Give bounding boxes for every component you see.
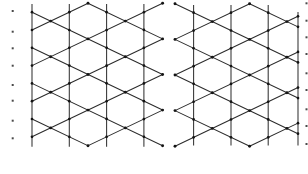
- crossing-dot: [49, 91, 52, 94]
- crossing-dot: [161, 37, 164, 40]
- node-dot: [31, 46, 34, 49]
- lattice-diagram: [0, 0, 308, 174]
- node-dot: [143, 11, 146, 14]
- node-dot: [192, 65, 195, 68]
- node-dot: [297, 122, 300, 125]
- crossing-dot: [87, 109, 90, 112]
- crossing-dot: [87, 73, 90, 76]
- node-dot: [267, 100, 270, 103]
- node-dot: [105, 118, 108, 121]
- node-dot: [267, 47, 270, 50]
- edge-dot: [12, 31, 14, 33]
- node-dot: [68, 100, 71, 103]
- crossing-dot: [161, 144, 164, 147]
- edge-dot: [12, 120, 14, 122]
- node-dot: [297, 51, 300, 54]
- lattice-canvas: [0, 0, 308, 174]
- node-dot: [297, 61, 300, 64]
- left-lattice-panel: [31, 2, 164, 147]
- node-dot: [31, 11, 34, 14]
- node-dot: [31, 135, 34, 138]
- node-dot: [143, 29, 146, 32]
- node-dot: [68, 11, 71, 14]
- descending-diagonal-line: [250, 4, 298, 27]
- crossing-dot: [49, 126, 52, 129]
- crossing-dot: [87, 2, 90, 5]
- crossing-dot: [211, 127, 214, 130]
- crossing-dot: [161, 2, 164, 5]
- crossing-dot: [285, 56, 288, 59]
- right-lattice-panel: [174, 2, 300, 147]
- edge-dot: [306, 89, 308, 91]
- node-dot: [297, 86, 300, 89]
- node-dot: [297, 26, 300, 29]
- crossing-dot: [87, 144, 90, 147]
- edge-dot: [306, 108, 308, 110]
- node-dot: [31, 82, 34, 85]
- node-dot: [105, 29, 108, 32]
- crossing-dot: [248, 74, 251, 77]
- node-dot: [31, 29, 34, 32]
- crossing-dot: [174, 2, 177, 5]
- node-dot: [192, 11, 195, 14]
- node-dot: [267, 118, 270, 121]
- node-dot: [230, 100, 233, 103]
- node-dot: [192, 47, 195, 50]
- node-dot: [31, 100, 34, 103]
- node-dot: [105, 100, 108, 103]
- crossing-dot: [49, 20, 52, 23]
- node-dot: [105, 64, 108, 67]
- node-dot: [297, 97, 300, 100]
- node-dot: [105, 82, 108, 85]
- crossing-dot: [248, 38, 251, 41]
- node-dot: [230, 65, 233, 68]
- node-dot: [143, 100, 146, 103]
- node-dot: [68, 29, 71, 32]
- node-dot: [267, 83, 270, 86]
- left-edge-dot-column: [12, 10, 14, 139]
- crossing-dot: [285, 20, 288, 23]
- crossing-dot: [211, 91, 214, 94]
- edge-dot: [306, 2, 308, 4]
- node-dot: [267, 136, 270, 139]
- crossing-dot: [285, 127, 288, 130]
- node-dot: [192, 118, 195, 121]
- crossing-dot: [248, 145, 251, 148]
- node-dot: [143, 46, 146, 49]
- edge-dot: [306, 143, 308, 145]
- crossing-dot: [211, 20, 214, 23]
- node-dot: [230, 136, 233, 139]
- node-dot: [143, 118, 146, 121]
- crossing-dot: [248, 2, 251, 5]
- edge-dot: [306, 125, 308, 127]
- node-dot: [192, 136, 195, 139]
- node-dot: [68, 82, 71, 85]
- node-dot: [31, 118, 34, 121]
- crossing-dot: [124, 91, 127, 94]
- node-dot: [105, 135, 108, 138]
- edge-dot: [12, 84, 14, 86]
- node-dot: [297, 132, 300, 135]
- right-edge-dot-column: [306, 2, 308, 145]
- edge-dot: [306, 20, 308, 22]
- crossing-dot: [285, 91, 288, 94]
- node-dot: [68, 46, 71, 49]
- node-dot: [105, 11, 108, 14]
- node-dot: [143, 64, 146, 67]
- edge-dot: [12, 100, 14, 102]
- crossing-dot: [211, 56, 214, 59]
- crossing-dot: [174, 145, 177, 148]
- node-dot: [105, 46, 108, 49]
- crossing-dot: [174, 38, 177, 41]
- edge-dot: [306, 53, 308, 55]
- node-dot: [192, 100, 195, 103]
- crossing-dot: [161, 109, 164, 112]
- crossing-dot: [124, 126, 127, 129]
- crossing-dot: [124, 55, 127, 58]
- node-dot: [31, 64, 34, 67]
- node-dot: [192, 83, 195, 86]
- crossing-dot: [174, 109, 177, 112]
- node-dot: [230, 11, 233, 14]
- edge-dot: [12, 47, 14, 49]
- crossing-dot: [161, 73, 164, 76]
